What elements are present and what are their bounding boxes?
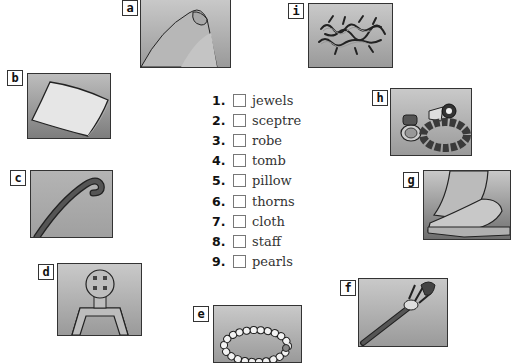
pearls-icon [214,306,301,362]
item-number: 2. [212,113,230,128]
item-word: tomb [252,153,286,168]
list-item: 8. staff [212,231,301,251]
picture-label-d: d [38,264,54,280]
item-number: 1. [212,93,230,108]
picture-pillow [27,73,111,139]
list-item: 3. robe [212,130,301,150]
list-item: 6. thorns [212,191,301,211]
item-word: thorns [252,194,295,209]
sceptre-icon [359,279,447,346]
list-item: 9. pearls [212,252,301,272]
answer-box[interactable] [233,215,246,228]
item-number: 5. [212,173,230,188]
item-number: 3. [212,133,230,148]
answer-box[interactable] [233,94,246,107]
list-item: 5. pillow [212,171,301,191]
picture-label-c: c [10,170,26,186]
item-word: pearls [252,254,293,269]
jewels-icon [391,89,471,155]
picture-label-g: g [403,172,419,188]
answer-box[interactable] [233,235,246,248]
pillow-icon [28,74,110,138]
picture-label-h: h [372,90,388,106]
picture-tomb [57,263,142,336]
list-item: 1. jewels [212,90,301,110]
answer-box[interactable] [233,174,246,187]
list-item: 2. sceptre [212,110,301,130]
picture-robe [140,0,231,68]
item-word: pillow [252,173,292,188]
robe-icon [141,0,230,67]
picture-thorns [308,3,393,68]
picture-pearls [213,305,302,363]
item-number: 9. [212,254,230,269]
item-number: 4. [212,153,230,168]
answer-box[interactable] [233,255,246,268]
item-word: robe [252,133,282,148]
tomb-icon [58,264,141,335]
answer-box[interactable] [233,134,246,147]
thorns-icon [309,4,392,67]
item-number: 6. [212,194,230,209]
item-word: sceptre [252,113,301,128]
picture-label-e: e [193,306,209,322]
answer-box[interactable] [233,154,246,167]
item-word: cloth [252,214,285,229]
picture-jewels [390,88,472,156]
item-number: 8. [212,234,230,249]
item-number: 7. [212,214,230,229]
picture-cloth [423,170,511,240]
list-item: 4. tomb [212,151,301,171]
picture-sceptre [358,278,448,347]
answer-box[interactable] [233,114,246,127]
picture-label-f: f [340,280,356,296]
picture-staff [30,170,113,238]
answer-box[interactable] [233,195,246,208]
picture-label-b: b [7,70,23,86]
item-word: staff [252,234,281,249]
picture-label-a: a [122,0,138,16]
item-word: jewels [252,93,293,108]
picture-label-i: i [288,3,304,19]
staff-icon [31,171,112,237]
list-item: 7. cloth [212,211,301,231]
word-list: 1. jewels 2. sceptre 3. robe 4. tomb 5. … [212,90,301,272]
cloth-icon [424,171,510,239]
